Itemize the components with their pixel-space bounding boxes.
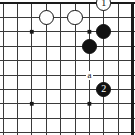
star-point	[88, 102, 92, 106]
black-stone	[82, 39, 97, 54]
point-label-a: a	[86, 71, 93, 80]
star-point	[30, 30, 34, 34]
white-stone	[67, 10, 82, 25]
move-number-label: 2	[101, 84, 106, 94]
star-point	[30, 102, 34, 106]
go-board-diagram: 12a	[0, 0, 135, 135]
move-number-label: 1	[101, 0, 106, 8]
white-stone	[39, 10, 54, 25]
star-point	[88, 30, 92, 34]
